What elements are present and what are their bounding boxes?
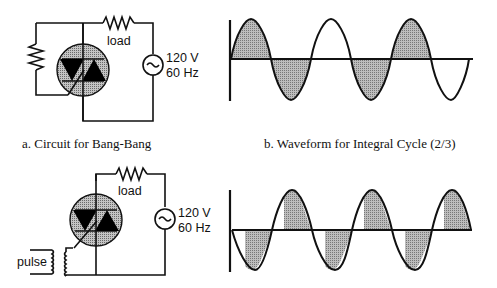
source-voltage-label-2: 120 V: [178, 207, 211, 220]
secondary-top-wire: [66, 248, 73, 252]
load-resistor: [103, 17, 134, 29]
source-frequency-label: 60 Hz: [166, 67, 199, 80]
secondary-coil: [65, 252, 67, 276]
load-label-2: load: [118, 185, 142, 198]
pulse-label: pulse: [17, 256, 47, 269]
wire-top-right: [147, 174, 165, 207]
secondary-bottom-wire: [66, 275, 68, 276]
caption-b: b. Waveform for Integral Cycle (2/3): [264, 137, 455, 150]
triac-symbol: [57, 23, 109, 121]
source-voltage-label: 120 V: [166, 52, 199, 65]
triac-symbol-2: [70, 174, 122, 275]
gate-resistor: [29, 44, 43, 70]
wire-top-right: [134, 23, 153, 54]
wire-top-left: [96, 174, 116, 181]
primary-coil: [52, 250, 54, 274]
caption-a: a. Circuit for Bang-Bang: [22, 137, 151, 150]
sine-glyph-icon: [147, 63, 159, 67]
load-resistor: [116, 168, 147, 180]
sine-glyph-icon: [159, 217, 171, 221]
source-frequency-label-2: 60 Hz: [178, 222, 211, 235]
waveform-phase-control: [230, 189, 472, 272]
waveform-integral-cycle: [230, 19, 473, 101]
load-label: load: [107, 35, 131, 48]
